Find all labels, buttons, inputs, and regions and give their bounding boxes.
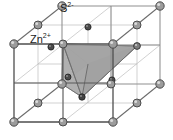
zinc-blende-figure: S2- Zn2+: [0, 0, 173, 140]
label-zinc-charge: 2+: [43, 32, 51, 39]
label-zinc: Zn2+: [30, 34, 51, 45]
coordination-tetrahedron: [62, 44, 137, 97]
label-sulfide-charge: 2-: [67, 1, 73, 8]
label-zinc-symbol: Zn: [30, 33, 43, 45]
label-sulfide: S2-: [60, 3, 74, 14]
unit-cell-drawing: [0, 0, 173, 140]
